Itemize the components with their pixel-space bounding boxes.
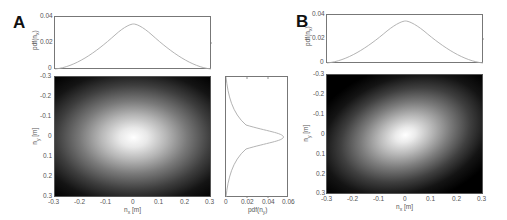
a-right-marginal-axes [225, 76, 288, 197]
b-heat-xtick: -0.1 [373, 196, 384, 203]
a-right-xtick: 0 [224, 199, 228, 206]
b-heat-xtick: 0.1 [426, 196, 435, 203]
b-top-ylabel: pdf(nx) [305, 26, 313, 46]
a-top-marginal-axes [54, 16, 211, 69]
a-heat-ylabel: ny [m] [32, 128, 40, 145]
panel-label-a: A [13, 13, 25, 33]
b-top-ytick: 0.02 [312, 35, 325, 42]
a-heat-xlabel: nx [m] [124, 207, 141, 215]
a-heat-xtick: 0 [131, 199, 135, 206]
b-heat-ytick: 0.2 [316, 171, 325, 178]
b-top-ytick: 0 [320, 59, 324, 66]
a-right-xtick: 0.02 [241, 199, 254, 206]
a-top-ytick: 0.02 [40, 39, 53, 46]
a-heat-ytick: -0.2 [40, 93, 51, 100]
b-heat-xtick: 0.2 [452, 196, 461, 203]
a-heat-ytick: 0 [48, 133, 52, 140]
a-heat-xtick: 0.1 [154, 199, 163, 206]
a-right-xtick: 0.04 [262, 199, 275, 206]
a-right-curve [226, 77, 289, 198]
a-heat-xtick: -0.1 [100, 199, 111, 206]
b-heat-ytick: -0.3 [313, 71, 324, 78]
a-heat-xtick: -0.2 [74, 199, 85, 206]
a-joint-heatmap [54, 76, 211, 197]
b-top-marginal-axes [326, 14, 483, 63]
a-heat-ytick: 0.1 [43, 153, 52, 160]
b-heat-ytick: -0.1 [313, 111, 324, 118]
a-density-blob [54, 76, 211, 197]
b-heat-xtick: 0 [403, 196, 407, 203]
a-top-ytick: 0 [48, 65, 52, 72]
b-heat-xlabel: nx [m] [396, 204, 413, 212]
a-heat-xtick: 0.2 [180, 199, 189, 206]
b-heat-ytick: 0.1 [316, 151, 325, 158]
a-heat-xtick: -0.3 [48, 199, 59, 206]
b-heat-ytick: 0 [321, 131, 325, 138]
a-heat-ytick: 0.2 [43, 173, 52, 180]
a-right-xlabel: pdf(ny) [248, 207, 268, 215]
b-heat-xtick: -0.3 [321, 196, 332, 203]
b-top-ytick: 0.04 [312, 11, 325, 18]
b-heat-ytick: -0.2 [313, 91, 324, 98]
a-heat-xtick: 0.3 [205, 199, 214, 206]
a-top-curve [55, 17, 212, 70]
b-top-curve [327, 15, 484, 64]
b-density-blob [326, 74, 483, 194]
b-heat-xtick: -0.2 [347, 196, 358, 203]
a-heat-ytick: -0.3 [40, 73, 51, 80]
b-heat-ylabel: ny [m] [303, 125, 311, 142]
b-joint-heatmap [326, 74, 483, 194]
a-top-ytick: 0.04 [40, 13, 53, 20]
b-heat-xtick: 0.3 [477, 196, 486, 203]
a-right-xtick: 0.06 [282, 199, 295, 206]
a-heat-ytick: -0.1 [40, 113, 51, 120]
a-top-ylabel: pdf(nx) [32, 30, 40, 50]
